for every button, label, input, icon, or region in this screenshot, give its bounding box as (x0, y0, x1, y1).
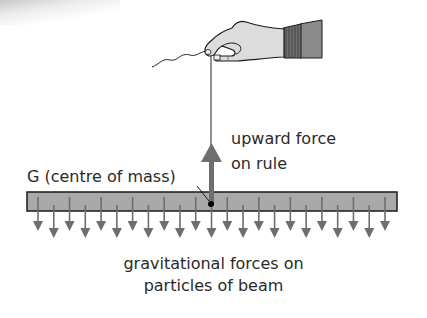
hand-icon (205, 20, 322, 61)
centre-of-mass-label: G (centre of mass) (27, 169, 176, 185)
centre-of-mass-dot (208, 201, 214, 207)
upward-force-label-line2: on rule (231, 156, 287, 172)
gravity-caption-line2: particles of beam (0, 278, 427, 294)
upward-force-label-line1: upward force (231, 131, 336, 147)
gravity-caption-line1: gravitational forces on (0, 256, 427, 272)
string-loose-end (152, 51, 206, 67)
